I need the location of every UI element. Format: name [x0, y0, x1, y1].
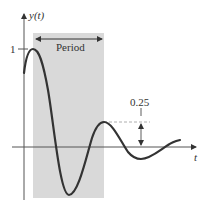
period-label: Period [56, 41, 85, 53]
y-axis-label: y(t) [28, 9, 45, 22]
period-shaded-region [33, 33, 104, 198]
damped-oscillation-figure: y(t) t 1 Period 0.25 [0, 0, 208, 214]
y-tick-label-1: 1 [10, 43, 16, 55]
amplitude-label: 0.25 [130, 96, 150, 108]
x-axis-label: t [194, 151, 198, 163]
